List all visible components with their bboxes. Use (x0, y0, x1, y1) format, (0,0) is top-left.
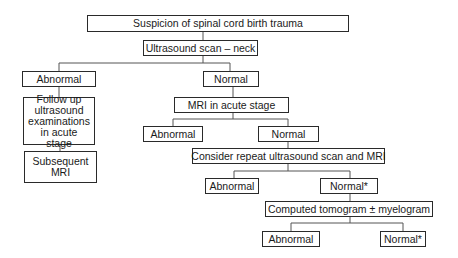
node-ultrasound-scan-neck: Ultrasound scan – neck (143, 40, 258, 56)
node-consider-repeat: Consider repeat ultrasound scan and MRI (192, 148, 385, 164)
node-ultrasound-abnormal: Abnormal (22, 71, 96, 87)
node-suspicion-of-spinal-cord-birth-trauma: Suspicion of spinal cord birth trauma (87, 15, 349, 32)
node-ct-abnormal: Abnormal (262, 231, 320, 247)
node-mri-normal: Normal (258, 126, 319, 142)
node-repeat-normal: Normal* (320, 178, 378, 194)
node-mri-abnormal: Abnormal (143, 126, 203, 142)
node-follow-up-ultrasound: Follow up ultrasound examinations in acu… (23, 97, 95, 145)
node-ultrasound-normal: Normal (203, 71, 259, 87)
node-computed-tomogram: Computed tomogram ± myelogram (265, 201, 433, 217)
node-mri-acute-stage: MRI in acute stage (174, 97, 289, 113)
node-repeat-abnormal: Abnormal (205, 178, 259, 194)
node-ct-normal: Normal* (380, 231, 426, 247)
node-subsequent-mri: Subsequent MRI (24, 151, 97, 183)
